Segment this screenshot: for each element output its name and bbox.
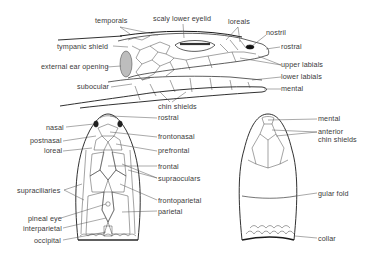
label-supraoculars: supraoculars [158,175,200,183]
label-collar: collar [318,235,336,243]
label-external-ear-opening: external ear opening [41,63,109,71]
label-mental-lateral: mental [281,85,303,93]
label-anterior-chin-shields-line2: chin shields [318,136,357,144]
label-frontal: frontal [158,163,179,171]
label-chin-shields: chin shields [158,103,197,111]
label-supraciliaries: supraciliaries [17,187,60,195]
label-upper-labials: upper labials [281,61,323,69]
label-lower-labials: lower labials [281,73,322,81]
label-postnasal: postnasal [30,137,62,145]
label-prefrontal: prefrontal [158,147,189,155]
label-nasal: nasal [46,124,64,132]
label-loreal: loreal [44,147,62,155]
label-pineal-eye: pineal eye [28,215,62,223]
ventral-head-view [239,114,297,240]
label-temporals: temporals [95,17,127,25]
label-interparietal: interparietal [23,225,62,233]
label-occipital: occipital [34,237,61,245]
label-nostril: nostril [266,29,286,37]
label-rostral-lateral: rostral [281,43,302,51]
label-mental-ventral: mental [318,115,340,123]
label-frontonasal: frontonasal [158,133,195,141]
label-scaly-lower-eyelid: scaly lower eyelid [153,15,211,23]
dorsal-head-view [76,114,140,240]
label-rostral-dorsal: rostral [158,114,179,122]
label-parietal: parietal [158,208,182,216]
label-subocular: subocular [77,83,109,91]
label-gular-fold: gular fold [318,190,349,198]
label-frontoparietal: frontoparietal [158,197,201,205]
label-tympanic-shield: tympanic shield [57,43,108,51]
label-loreals: loreals [228,18,250,26]
